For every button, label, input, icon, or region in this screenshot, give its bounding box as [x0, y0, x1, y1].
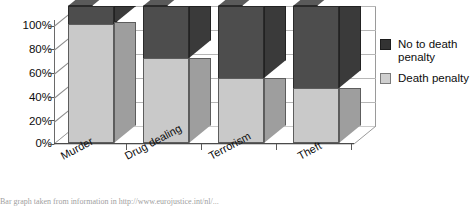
plot-area	[54, 6, 376, 144]
legend-item-no-to-death-penalty: No to death penalty	[380, 38, 474, 63]
bar-side-death-penalty	[114, 22, 136, 143]
bar-column-theft	[293, 6, 339, 143]
legend-item-death-penalty: Death penalty	[380, 72, 474, 85]
legend-item-label: No to death penalty	[398, 38, 474, 63]
x-axis-tick-mark	[201, 144, 202, 150]
figure-caption: Bar graph taken from information in http…	[0, 196, 474, 206]
y-axis-tick-label: 0%	[6, 138, 52, 149]
bar-column-terrorism	[218, 6, 264, 143]
bar-column-murder	[68, 6, 114, 143]
chart-figure: 100% 80% 60% 40% 20% 0%	[0, 0, 474, 206]
bar-column-drug-dealing	[143, 6, 189, 143]
legend-swatch-icon	[380, 73, 391, 84]
y-axis-tick-label: 40%	[6, 92, 52, 103]
y-axis-tick-label: 60%	[6, 68, 52, 79]
x-axis-tick-mark	[276, 144, 277, 150]
legend-item-label: Death penalty	[398, 72, 474, 85]
y-axis-tick-label: 80%	[6, 44, 52, 55]
bar-segment-death-penalty	[68, 24, 114, 143]
x-axis-tick-mark	[351, 144, 352, 150]
chart-legend: No to death penalty Death penalty	[380, 38, 474, 94]
legend-swatch-icon	[380, 39, 391, 50]
y-axis-tick-label: 20%	[6, 116, 52, 127]
bar-segment-death-penalty	[293, 88, 339, 143]
y-axis: 100% 80% 60% 40% 20% 0%	[0, 0, 52, 206]
y-axis-tick-label: 100%	[6, 20, 52, 31]
